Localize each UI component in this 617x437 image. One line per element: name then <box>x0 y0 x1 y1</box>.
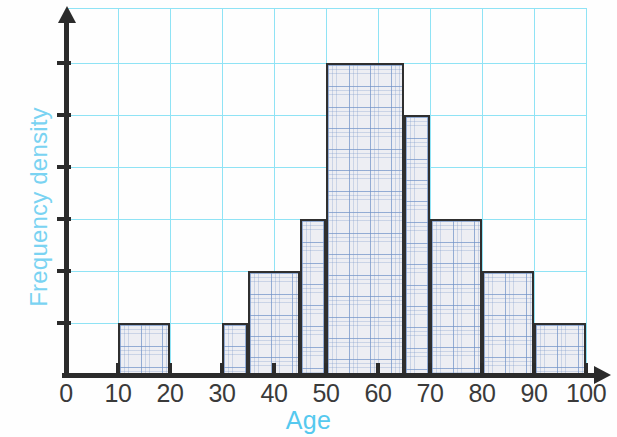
x-tick-mark <box>272 363 276 377</box>
y-tick-mark <box>57 321 71 325</box>
x-tick-label: 0 <box>36 379 96 408</box>
x-tick-mark <box>324 363 328 377</box>
x-tick-label: 90 <box>504 379 564 408</box>
x-axis-line <box>62 373 598 378</box>
histogram-bar <box>534 323 586 375</box>
x-tick-label: 60 <box>348 379 408 408</box>
x-tick-label: 20 <box>140 379 200 408</box>
plot-area <box>66 8 586 375</box>
y-tick-mark <box>57 165 71 169</box>
x-tick-mark <box>116 363 120 377</box>
histogram-bar <box>118 323 170 375</box>
histogram-bar <box>222 323 248 375</box>
x-axis-title: Age <box>0 406 617 435</box>
y-tick-mark <box>57 113 71 117</box>
x-tick-label: 80 <box>452 379 512 408</box>
x-tick-mark <box>428 363 432 377</box>
histogram-bar <box>248 271 300 375</box>
y-tick-mark <box>57 217 71 221</box>
gridline-horizontal <box>66 8 586 9</box>
x-tick-mark <box>480 363 484 377</box>
histogram-bar <box>404 115 430 375</box>
x-tick-label: 50 <box>296 379 356 408</box>
x-tick-mark <box>532 363 536 377</box>
histogram-bar <box>326 63 404 375</box>
histogram-figure: 0102030405060708090100 Age Frequency den… <box>0 0 617 437</box>
y-axis-arrow-icon <box>58 6 76 23</box>
x-tick-label: 10 <box>88 379 148 408</box>
y-tick-mark <box>57 61 71 65</box>
x-tick-label: 70 <box>400 379 460 408</box>
x-tick-mark <box>168 363 172 377</box>
histogram-bar <box>300 219 326 375</box>
histogram-bar <box>482 271 534 375</box>
x-tick-mark <box>220 363 224 377</box>
y-axis-title: Frequency density <box>25 82 53 332</box>
x-tick-mark <box>584 363 588 377</box>
x-tick-label: 30 <box>192 379 252 408</box>
y-tick-mark <box>57 269 71 273</box>
histogram-bar <box>430 219 482 375</box>
x-tick-label: 100 <box>556 379 616 408</box>
gridline-vertical <box>586 8 587 375</box>
x-tick-label: 40 <box>244 379 304 408</box>
x-tick-mark <box>64 363 68 377</box>
x-tick-mark <box>376 363 380 377</box>
